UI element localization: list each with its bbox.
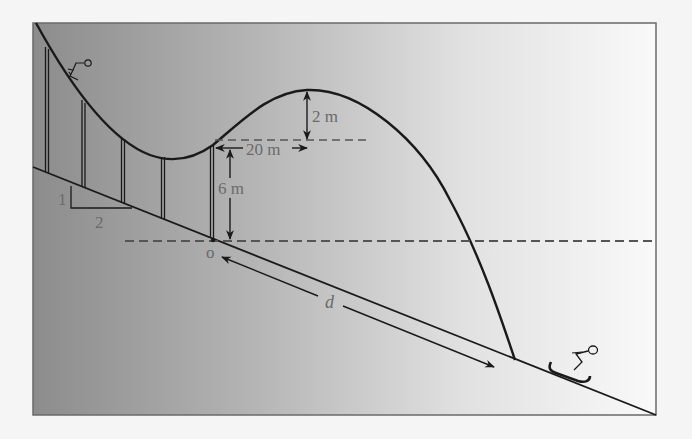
height-6m-label: 6 m (218, 179, 244, 198)
height-2m-label: 2 m (312, 107, 338, 126)
diagram-frame (33, 23, 656, 415)
ski-jump-diagram: 1 2 2 m 20 m 6 m o d (0, 0, 692, 439)
slope-rise-label: 1 (58, 190, 67, 209)
slope-run-label: 2 (95, 213, 104, 232)
distance-label: d (325, 292, 335, 312)
origin-label: o (206, 243, 215, 262)
origin-point (211, 238, 215, 242)
horizontal-20m-label: 20 m (246, 140, 280, 159)
